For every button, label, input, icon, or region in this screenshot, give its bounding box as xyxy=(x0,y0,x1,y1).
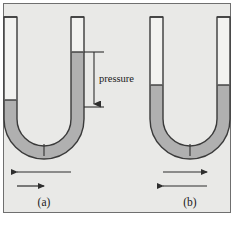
pressure-label: pressure xyxy=(99,73,134,84)
panel-a-caption: (a) xyxy=(38,196,51,209)
manometer-figure: pressure (a) xyxy=(0,0,241,225)
figure-background xyxy=(3,3,231,213)
figure-canvas: pressure (a) xyxy=(0,0,241,225)
panel-b-caption: (b) xyxy=(183,196,197,209)
